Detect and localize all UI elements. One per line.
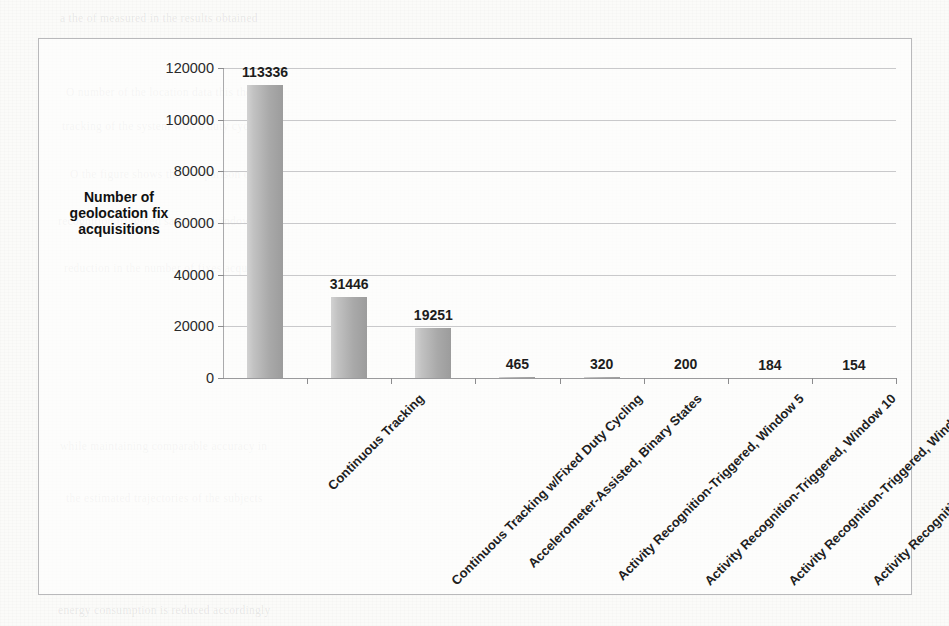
bar-value-label: 19251 [414, 307, 453, 323]
x-axis-tick [644, 378, 645, 384]
y-axis-tick [218, 378, 224, 379]
y-axis-tick [218, 223, 224, 224]
bar-value-label: 113336 [242, 64, 288, 80]
bar-value-label: 320 [590, 356, 613, 372]
x-axis-tick [475, 378, 476, 384]
y-axis-tick-label: 40000 [174, 267, 214, 283]
y-axis-tick [218, 326, 224, 327]
y-axis-title-line: geolocation fix [53, 205, 185, 221]
x-axis-tick [728, 378, 729, 384]
x-axis-category-label: Continuous Tracking [325, 391, 427, 493]
gridline [223, 223, 896, 224]
bar-value-label: 200 [674, 356, 697, 372]
gridline [223, 171, 896, 172]
y-axis-title-line: acquisitions [53, 221, 185, 237]
y-axis-tick-label: 20000 [174, 318, 214, 334]
y-axis-tick-label: 60000 [174, 215, 214, 231]
bar-value-label: 154 [842, 357, 865, 373]
ghost-text-line: energy consumption is reduced accordingl… [58, 604, 271, 616]
gridline [223, 120, 896, 121]
y-axis-title-line: Number of [53, 189, 185, 205]
bar[interactable] [247, 85, 283, 378]
gridline [223, 68, 896, 69]
y-axis-tick [218, 275, 224, 276]
x-axis-tick [391, 378, 392, 384]
bar[interactable] [331, 297, 367, 378]
chart-frame: Number of geolocation fix acquisitions 0… [38, 38, 912, 595]
bar-value-label: 184 [758, 357, 781, 373]
x-axis-category-label: Activity Recognition-Triggered, Window 1… [701, 391, 898, 588]
gridline [223, 275, 896, 276]
x-axis-tick [896, 378, 897, 384]
y-axis-title: Number of geolocation fix acquisitions [53, 189, 185, 237]
y-axis-tick-label: 0 [206, 370, 214, 386]
gridline [223, 326, 896, 327]
y-axis-tick [218, 171, 224, 172]
x-axis-tick [307, 378, 308, 384]
ghost-text-line: a the of measured in the results obtaine… [60, 12, 258, 24]
y-axis-tick [218, 120, 224, 121]
x-axis-tick [560, 378, 561, 384]
bar-value-label: 31446 [330, 276, 369, 292]
bar[interactable] [584, 377, 620, 378]
bar[interactable] [499, 377, 535, 378]
y-axis-tick-label: 100000 [166, 112, 214, 128]
y-axis-tick [218, 68, 224, 69]
plot-area: 020000400006000080000100000120000 113336… [223, 68, 896, 378]
y-axis-tick-label: 80000 [174, 163, 214, 179]
x-axis-category-label: Activity Recognition-Triggered, Window 5 [615, 391, 807, 583]
bar-value-label: 465 [506, 356, 529, 372]
bar[interactable] [415, 328, 451, 378]
x-axis-tick [812, 378, 813, 384]
y-axis-tick-label: 120000 [166, 60, 214, 76]
